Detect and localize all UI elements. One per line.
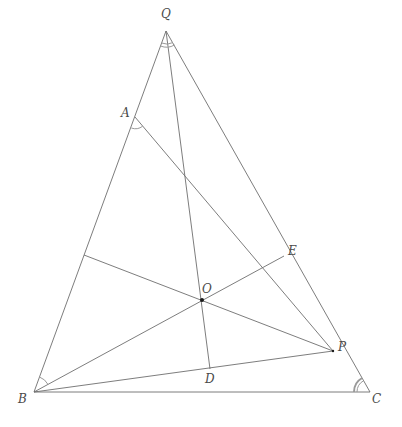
label-B: B xyxy=(18,393,27,405)
label-D: D xyxy=(205,373,215,385)
angle-mark-C-outer xyxy=(354,378,362,392)
label-A: A xyxy=(121,107,130,119)
label-C: C xyxy=(372,393,381,405)
segment-QC xyxy=(166,31,370,392)
segment-BP xyxy=(34,351,333,392)
label-E: E xyxy=(288,245,297,257)
point-O xyxy=(200,298,204,302)
angle-mark-B xyxy=(40,377,49,384)
segment-BE xyxy=(34,256,284,392)
segment-QB xyxy=(34,31,166,392)
segment-FP xyxy=(84,255,333,351)
geometry-diagram xyxy=(0,0,402,427)
segment-QD xyxy=(166,31,210,369)
label-Q: Q xyxy=(161,8,171,20)
angle-mark-A xyxy=(131,126,142,129)
label-O: O xyxy=(202,283,212,295)
label-P: P xyxy=(338,341,346,353)
point-P xyxy=(332,350,334,352)
